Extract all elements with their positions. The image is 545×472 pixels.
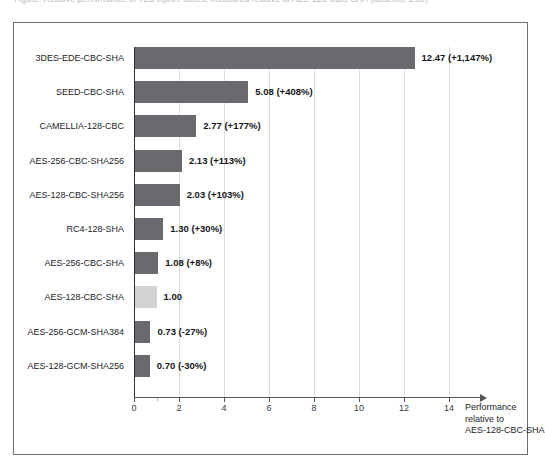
bar-value-label: 1.00: [164, 286, 183, 308]
bar-row[interactable]: AES-128-CBC-SHA1.00: [14, 286, 527, 308]
bar[interactable]: [134, 81, 248, 103]
y-axis-line: [134, 47, 135, 397]
category-label: CAMELLIA-128-CBC: [14, 115, 124, 137]
category-label: AES-128-GCM-SHA256: [14, 355, 124, 377]
x-axis-tick-label: 0: [119, 403, 149, 413]
category-label: AES-256-CBC-SHA: [14, 252, 124, 274]
x-axis-tick-label: 4: [209, 403, 239, 413]
bar-value-label: 2.03 (+103%): [187, 184, 244, 206]
bar[interactable]: [134, 218, 163, 240]
x-axis-tick-label: 10: [344, 403, 374, 413]
bar[interactable]: [134, 321, 150, 343]
x-axis-tick: [269, 398, 270, 402]
x-axis-tick: [179, 398, 180, 402]
figure-caption-text: Figure: Relative performance of TLS ciph…: [14, 0, 428, 4]
x-axis-caption-line: Performance: [465, 402, 545, 414]
bar-row[interactable]: AES-128-GCM-SHA2560.70 (-30%): [14, 355, 527, 377]
plot-area: 3DES-EDE-CBC-SHA12.47 (+1,147%)SEED-CBC-…: [14, 23, 527, 454]
x-axis-arrow-icon: [480, 394, 487, 402]
bar[interactable]: [134, 150, 182, 172]
category-label: AES-128-CBC-SHA: [14, 286, 124, 308]
category-label: AES-256-GCM-SHA384: [14, 321, 124, 343]
bar-value-label: 0.73 (-27%): [157, 321, 207, 343]
x-axis-caption-line: AES-128-CBC-SHA: [465, 425, 545, 437]
x-axis-tick-label: 12: [389, 403, 419, 413]
x-axis-line: [134, 397, 481, 398]
x-axis-caption-line: relative to: [465, 414, 545, 426]
x-axis-tick: [314, 398, 315, 402]
x-axis-minor-tick: [157, 398, 158, 401]
bar[interactable]: [134, 252, 158, 274]
bar-row[interactable]: AES-256-CBC-SHA2562.13 (+113%): [14, 150, 527, 172]
x-axis-caption: Performancerelative toAES-128-CBC-SHA: [465, 402, 545, 437]
bar-row[interactable]: AES-256-GCM-SHA3840.73 (-27%): [14, 321, 527, 343]
x-axis-tick: [404, 398, 405, 402]
bar-value-label: 2.13 (+113%): [189, 150, 246, 172]
x-axis-tick: [449, 398, 450, 402]
x-axis-tick: [134, 398, 135, 402]
bar-value-label: 5.08 (+408%): [255, 81, 312, 103]
x-axis-tick-label: 2: [164, 403, 194, 413]
bar-row[interactable]: AES-128-CBC-SHA2562.03 (+103%): [14, 184, 527, 206]
x-axis-tick-label: 8: [299, 403, 329, 413]
figure-caption-strip: Figure: Relative performance of TLS ciph…: [0, 0, 543, 10]
bar[interactable]: [134, 286, 157, 308]
bar-value-label: 0.70 (-30%): [157, 355, 207, 377]
bar-row[interactable]: SEED-CBC-SHA5.08 (+408%): [14, 81, 527, 103]
bar[interactable]: [134, 184, 180, 206]
bar[interactable]: [134, 355, 150, 377]
x-axis-tick: [224, 398, 225, 402]
bar-row[interactable]: RC4-128-SHA1.30 (+30%): [14, 218, 527, 240]
bar-value-label: 1.08 (+8%): [165, 252, 212, 274]
category-label: 3DES-EDE-CBC-SHA: [14, 47, 124, 69]
bar-row[interactable]: CAMELLIA-128-CBC2.77 (+177%): [14, 115, 527, 137]
bar-value-label: 12.47 (+1,147%): [422, 47, 493, 69]
category-label: RC4-128-SHA: [14, 218, 124, 240]
bar-value-label: 2.77 (+177%): [203, 115, 260, 137]
x-axis-tick: [359, 398, 360, 402]
category-label: AES-128-CBC-SHA256: [14, 184, 124, 206]
bar-row[interactable]: AES-256-CBC-SHA1.08 (+8%): [14, 252, 527, 274]
category-label: AES-256-CBC-SHA256: [14, 150, 124, 172]
bar-row[interactable]: 3DES-EDE-CBC-SHA12.47 (+1,147%): [14, 47, 527, 69]
chart-frame: 3DES-EDE-CBC-SHA12.47 (+1,147%)SEED-CBC-…: [13, 22, 528, 455]
bar[interactable]: [134, 115, 196, 137]
x-axis-tick-label: 14: [434, 403, 464, 413]
bar[interactable]: [134, 47, 415, 69]
bar-value-label: 1.30 (+30%): [170, 218, 222, 240]
x-axis-tick-label: 6: [254, 403, 284, 413]
category-label: SEED-CBC-SHA: [14, 81, 124, 103]
